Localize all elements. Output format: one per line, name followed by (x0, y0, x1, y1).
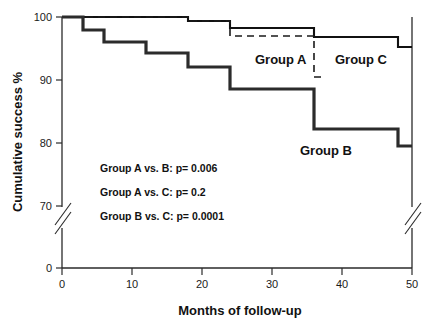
figure-container: 100 90 80 70 0 0 10 20 30 40 50 Months o… (0, 0, 435, 331)
curve-label-group-c: Group C (335, 52, 388, 67)
survival-chart: 100 90 80 70 0 0 10 20 30 40 50 Months o… (0, 0, 435, 331)
x-tick-label-0: 0 (59, 278, 65, 290)
y-tick-label-70: 70 (40, 200, 52, 212)
y-axis-title: Cumulative success % (10, 71, 25, 212)
annotation-p-a-vs-c: Group A vs. C: p= 0.2 (100, 186, 206, 198)
y-tick-label-90: 90 (40, 74, 52, 86)
x-tick-label-20: 20 (196, 278, 208, 290)
annotation-p-a-vs-b: Group A vs. B: p= 0.006 (100, 162, 218, 174)
x-tick-label-50: 50 (406, 278, 418, 290)
annotation-p-b-vs-c: Group B vs. C: p= 0.0001 (100, 210, 224, 222)
x-axis-title: Months of follow-up (178, 303, 302, 318)
y-tick-label-0: 0 (46, 262, 52, 274)
y-tick-label-80: 80 (40, 137, 52, 149)
x-tick-label-40: 40 (336, 278, 348, 290)
curve-label-group-a: Group A (255, 52, 307, 67)
curve-label-group-b: Group B (300, 143, 352, 158)
x-tick-label-10: 10 (126, 278, 138, 290)
x-tick-label-30: 30 (266, 278, 278, 290)
y-tick-label-100: 100 (34, 11, 52, 23)
chart-background (0, 0, 435, 331)
